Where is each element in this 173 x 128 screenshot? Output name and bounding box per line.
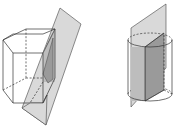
diagram-canvas: [0, 0, 173, 128]
geometry-diagram: [0, 0, 173, 128]
pentagonal-prism-figure: [3, 8, 81, 125]
cylinder-figure: [128, 4, 172, 107]
cylinder-section-light: [131, 47, 145, 101]
